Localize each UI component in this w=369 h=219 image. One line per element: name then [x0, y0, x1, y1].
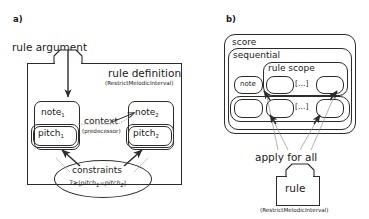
note1-text: note — [41, 107, 61, 117]
row2-cell-right — [316, 99, 344, 118]
note-cell-label: note — [240, 81, 256, 88]
rule-argument-label: rule argument — [12, 42, 87, 53]
rule-definition-title: rule definition — [108, 68, 181, 79]
formula-term-b-sub: 2 — [120, 182, 123, 188]
pitch1-text: pitch — [38, 128, 60, 138]
pitch1-label: pitch1 — [38, 129, 64, 138]
formula-term-b: pitch — [105, 179, 121, 186]
panel-a: a) rule argument rule definition (Restri… — [0, 0, 190, 219]
panel-b-letter: b) — [226, 15, 236, 24]
pitch2-label: pitch2 — [133, 129, 159, 138]
row2-cell-left — [266, 99, 294, 118]
ellipsis-top: […] — [295, 80, 308, 88]
pitch2-subscript: 2 — [155, 133, 158, 139]
context-sublabel: (predecessor) — [82, 129, 121, 135]
scope-cell-top-right — [316, 76, 344, 94]
formula-lhs: 7≥ — [69, 179, 78, 186]
note1-label: note1 — [41, 108, 65, 117]
formula-term-a: pitch — [80, 179, 96, 186]
scope-cell-top-left — [266, 76, 294, 94]
note1-subscript: 1 — [61, 112, 64, 118]
rule-label: rule — [285, 183, 305, 194]
constraints-title: constraints — [72, 166, 122, 175]
panel-b: b) score sequential rule scope note […] … — [190, 0, 369, 219]
pitch1-subscript: 1 — [60, 133, 63, 139]
rule-definition-subtitle: (RestrictMelodicInterval) — [105, 81, 174, 87]
context-label: context — [84, 117, 118, 126]
pitch2-text: pitch — [133, 128, 155, 138]
note2-subscript: 2 — [155, 112, 158, 118]
note2-text: note — [135, 107, 155, 117]
row2-cell-far-left — [234, 99, 263, 118]
ellipsis-bottom: […] — [295, 103, 308, 111]
formula-term-a-sub: 1 — [96, 182, 99, 188]
note2-label: note2 — [135, 108, 159, 117]
rule-subtitle: (RestrictMelodicInterval) — [260, 208, 329, 214]
apply-for-all-label: apply for all — [255, 152, 317, 163]
score-label: score — [232, 38, 256, 47]
rule-scope-label: rule scope — [268, 64, 315, 73]
formula-bar-close: | — [124, 179, 126, 186]
sequential-label: sequential — [233, 51, 280, 60]
constraints-formula: 7≥|pitch1−pitch2| — [69, 180, 126, 186]
panel-a-letter: a) — [13, 15, 23, 24]
